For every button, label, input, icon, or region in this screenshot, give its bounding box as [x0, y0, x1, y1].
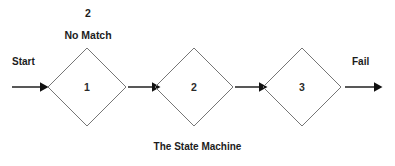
- state-node-1-label: 1: [84, 81, 90, 93]
- state-machine-diagram: 1 2 3 2 No Match Start Fail: [0, 0, 395, 166]
- state-node-3-label: 3: [299, 81, 305, 93]
- start-arrow: [12, 82, 49, 92]
- fail-arrow: [345, 82, 383, 92]
- state-node-3: 3: [263, 48, 341, 126]
- fail-label: Fail: [352, 57, 369, 67]
- no-match-count-label: 2: [0, 8, 176, 19]
- no-match-condition-label: No Match: [0, 30, 176, 41]
- state-node-1: 1: [48, 48, 126, 126]
- diagram-caption: The State Machine: [0, 142, 395, 152]
- state-node-2: 2: [155, 48, 233, 126]
- start-label: Start: [12, 57, 35, 67]
- state-node-2-label: 2: [191, 81, 197, 93]
